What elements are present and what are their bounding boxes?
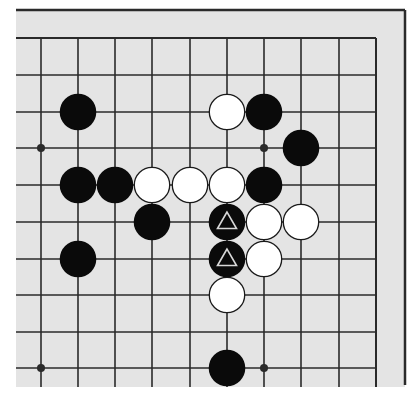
white-stone	[209, 167, 244, 202]
go-board	[0, 0, 412, 405]
go-board-diagram	[0, 0, 412, 405]
black-stone	[60, 94, 97, 131]
black-stone	[60, 167, 97, 204]
black-stone	[97, 167, 134, 204]
black-stone	[209, 241, 246, 278]
black-stone	[246, 94, 283, 131]
white-stone	[209, 94, 244, 129]
hoshi-point	[260, 364, 268, 372]
hoshi-point	[260, 144, 268, 152]
hoshi-point	[37, 364, 45, 372]
white-stone	[209, 277, 244, 312]
white-stone	[283, 204, 318, 239]
black-stone	[283, 130, 320, 167]
black-stone	[60, 241, 97, 278]
white-stone	[246, 241, 281, 276]
black-stone	[209, 350, 246, 387]
black-stone	[134, 204, 171, 241]
hoshi-point	[37, 144, 45, 152]
white-stone	[246, 204, 281, 239]
black-stone	[209, 204, 246, 241]
white-stone	[172, 167, 207, 202]
white-stone	[134, 167, 169, 202]
black-stone	[246, 167, 283, 204]
